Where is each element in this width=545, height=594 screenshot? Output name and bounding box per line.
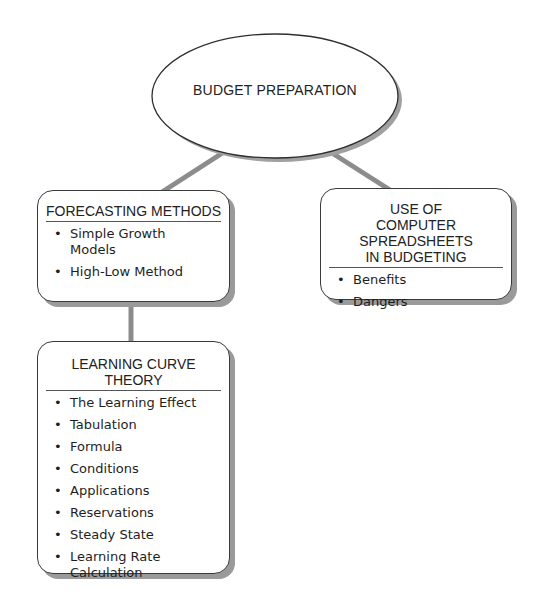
node-items: Benefits Dangers — [321, 272, 511, 310]
root-node-label: BUDGET PREPARATION — [152, 82, 398, 98]
list-item: The Learning Effect — [52, 395, 229, 411]
node-learning-curve-theory: LEARNING CURVE THEORY The Learning Effec… — [37, 341, 230, 574]
list-item: Applications — [52, 483, 229, 499]
list-item: Reservations — [52, 505, 229, 521]
list-item: Conditions — [52, 461, 229, 477]
list-item: Steady State — [52, 527, 229, 543]
node-title: LEARNING CURVE THEORY — [46, 356, 221, 391]
list-item: Tabulation — [52, 417, 229, 433]
list-item: Learning Rate Calculation — [52, 549, 170, 581]
connector-root-spreadsheets — [332, 153, 390, 190]
node-title: USE OF COMPUTER SPREADSHEETS IN BUDGETIN… — [329, 201, 503, 268]
node-title: FORECASTING METHODS — [46, 203, 221, 222]
list-item: Simple Growth Models — [52, 226, 170, 258]
connector-root-forecasting — [162, 152, 224, 192]
node-items: Simple Growth Models High-Low Method — [38, 226, 229, 280]
list-item: Formula — [52, 439, 229, 455]
list-item: Dangers — [335, 294, 511, 310]
list-item: Benefits — [335, 272, 511, 288]
node-items: The Learning Effect Tabulation Formula C… — [38, 395, 229, 581]
list-item: High-Low Method — [52, 264, 229, 280]
node-forecasting-methods: FORECASTING METHODS Simple Growth Models… — [37, 190, 230, 302]
node-computer-spreadsheets: USE OF COMPUTER SPREADSHEETS IN BUDGETIN… — [320, 188, 512, 300]
